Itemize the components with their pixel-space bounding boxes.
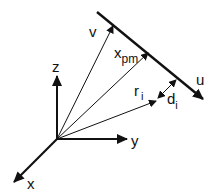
label-d-i-sub: i [175, 99, 177, 111]
vector-r-i [57, 101, 156, 139]
label-r-i-sub: i [141, 90, 143, 102]
label-u: u [196, 71, 204, 88]
vector-diagram: z y x v xpm u ri di [0, 0, 217, 192]
label-z: z [52, 58, 60, 75]
label-x-pm: xpm [114, 44, 138, 66]
label-v: v [89, 23, 97, 40]
label-d-i: di [167, 90, 178, 111]
label-r-i: ri [134, 82, 143, 102]
label-x: x [27, 175, 35, 192]
vector-v [57, 26, 113, 139]
label-r-i-base: r [134, 82, 139, 99]
axes [14, 76, 127, 182]
label-y: y [131, 132, 139, 149]
x-axis [14, 139, 57, 182]
label-d-i-base: d [167, 90, 175, 107]
label-x-pm-sub: pm [122, 52, 139, 66]
